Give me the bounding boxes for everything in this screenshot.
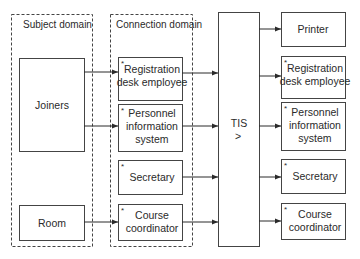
box-line: Registration [287,62,343,74]
connection-to-system-arrows [182,73,218,222]
context-diagram: Subject domain Joiners Room Connection d… [0,0,360,259]
connection-domain: Connection domain * Registration desk em… [111,15,203,247]
box-line: information [289,119,341,131]
box-line: Secretary [293,170,339,182]
connection-domain-title: Connection domain [116,19,202,30]
box-line: desk employee [280,75,351,87]
conn-personnel-box: * Personnel information system [119,105,183,152]
tis-label: TIS [231,117,247,129]
joiners-box: Joiners [20,59,85,152]
asterisk-marker: * [121,106,124,115]
box-line: Personnel [291,106,338,118]
asterisk-marker: * [121,206,124,215]
box-line: Registration [124,63,180,75]
box-line: information [126,120,178,132]
output-course-box: * Course coordinator [282,204,346,240]
room-label: Room [38,217,66,229]
tis-symbol: > [235,130,241,142]
system-to-output-arrows [259,29,281,221]
box-line: Personnel [128,107,175,119]
tis-system-box: TIS > [219,13,260,247]
conn-secretary-box: * Secretary [119,161,183,195]
joiners-label: Joiners [35,99,69,111]
output-registration-box: * Registration desk employee [280,57,351,99]
box-line: system [298,132,332,144]
box-line: Course [298,208,332,220]
output-secretary-box: * Secretary [282,160,346,194]
room-box: Room [20,206,85,241]
box-line: system [135,133,169,145]
subject-to-connection-arrows [84,72,118,222]
box-line: Course [135,209,169,221]
conn-registration-box: * Registration desk employee [117,58,188,101]
output-personnel-box: * Personnel information system [282,103,346,151]
subject-domain: Subject domain Joiners Room [12,15,93,247]
asterisk-marker: * [284,205,287,214]
box-line: Printer [298,23,329,35]
box-line: Secretary [130,171,176,183]
subject-domain-title: Subject domain [23,19,92,30]
output-printer-box: Printer [282,13,346,47]
conn-course-box: * Course coordinator [119,205,183,241]
asterisk-marker: * [284,104,287,113]
asterisk-marker: * [121,162,124,171]
box-line: desk employee [117,76,188,88]
box-line: coordinator [126,222,179,234]
box-line: coordinator [289,221,342,233]
asterisk-marker: * [284,161,287,170]
